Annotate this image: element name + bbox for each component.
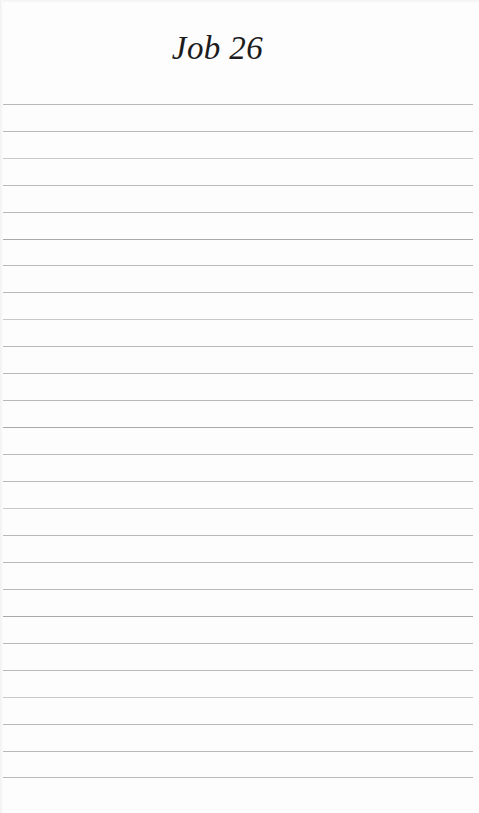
notebook-page: Job 26 <box>0 0 479 813</box>
rule-line <box>3 616 473 617</box>
rule-line <box>3 292 473 293</box>
rule-line <box>3 400 473 401</box>
rule-line <box>3 319 473 320</box>
rule-line <box>3 239 473 240</box>
rule-line <box>3 158 473 159</box>
rule-line <box>3 346 473 347</box>
rule-line <box>3 670 473 671</box>
rule-line <box>3 562 473 563</box>
rule-line <box>3 508 473 509</box>
rule-line <box>3 751 473 752</box>
rule-line <box>3 589 473 590</box>
rule-line <box>3 535 473 536</box>
rule-line <box>3 104 473 105</box>
rule-line <box>3 131 473 132</box>
ruled-lines-area <box>0 0 479 813</box>
rule-line <box>3 454 473 455</box>
rule-line <box>3 185 473 186</box>
rule-line <box>3 481 473 482</box>
rule-line <box>3 212 473 213</box>
rule-line <box>3 643 473 644</box>
rule-line <box>3 265 473 266</box>
rule-line <box>3 777 473 778</box>
rule-line <box>3 427 473 428</box>
rule-line <box>3 697 473 698</box>
rule-line <box>3 373 473 374</box>
rule-line <box>3 724 473 725</box>
